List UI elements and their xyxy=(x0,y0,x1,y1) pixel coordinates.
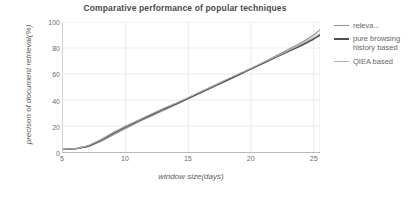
plot-svg xyxy=(63,22,320,152)
x-tick-label: 5 xyxy=(60,155,64,162)
chart-container: Comparative performance of popular techn… xyxy=(0,0,410,198)
legend-label: QIEA based xyxy=(353,57,393,66)
x-axis-tick-labels: 510152025 xyxy=(62,155,320,167)
y-tick-label: 80 xyxy=(38,45,60,52)
x-axis-title: window size(days) xyxy=(62,172,320,181)
legend-label: pure browsing history based xyxy=(353,34,409,52)
x-tick-label: 10 xyxy=(121,155,129,162)
y-axis-tick-labels: 020406080100 xyxy=(36,22,60,153)
chart-legend: releva...pure browsing history basedQIEA… xyxy=(334,21,410,70)
series-line-3 xyxy=(63,34,320,150)
series-line-2 xyxy=(63,35,320,149)
chart-title: Comparative performance of popular techn… xyxy=(55,3,315,13)
x-tick-label: 20 xyxy=(247,155,255,162)
y-tick-label: 100 xyxy=(38,19,60,26)
legend-entry[interactable]: QIEA based xyxy=(334,57,410,66)
legend-entry[interactable]: pure browsing history based xyxy=(334,34,410,52)
y-tick-label: 40 xyxy=(38,97,60,104)
legend-line-swatch xyxy=(334,38,349,40)
gridlines xyxy=(63,22,320,152)
legend-entry[interactable]: releva... xyxy=(334,21,410,30)
legend-line-swatch xyxy=(334,61,349,62)
x-tick-label: 25 xyxy=(310,155,318,162)
y-tick-label: 60 xyxy=(38,71,60,78)
legend-label: releva... xyxy=(353,21,380,30)
x-tick-label: 15 xyxy=(184,155,192,162)
y-tick-label: 20 xyxy=(38,123,60,130)
plot-area xyxy=(62,22,320,153)
y-tick-label: 0 xyxy=(38,150,60,157)
legend-line-swatch xyxy=(334,25,349,26)
y-axis-title: precison of document retrieval(%) xyxy=(24,10,33,160)
